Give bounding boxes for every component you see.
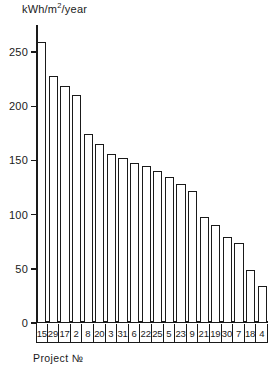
y-axis-tick: 100 [31, 214, 37, 215]
y-axis-tick-label: 250 [9, 46, 28, 58]
bar [95, 144, 104, 323]
x-axis-line [36, 321, 268, 323]
x-axis-category-label: 19 [210, 324, 222, 343]
y-axis-tick-label: 0 [22, 317, 28, 329]
bar [37, 42, 46, 323]
bar [72, 95, 81, 323]
bar [84, 134, 93, 323]
bar [153, 171, 162, 323]
y-axis-tick: 200 [31, 106, 37, 107]
y-axis-title-prefix: kWh/m [22, 3, 57, 15]
y-axis-title: kWh/m2/year [22, 3, 87, 15]
plot-area: 250200150100500 [36, 25, 268, 323]
x-axis-category-label: 21 [198, 324, 210, 343]
bar [234, 243, 243, 323]
y-axis-tick: 50 [31, 268, 37, 269]
y-axis-tick-label: 50 [15, 263, 28, 275]
y-axis-tick: 250 [31, 51, 37, 52]
y-axis-tick-label: 100 [9, 209, 28, 221]
x-axis-category-label: 6 [129, 324, 141, 343]
bar [176, 184, 185, 323]
bar [211, 225, 220, 323]
x-axis-title: Project № [33, 352, 83, 364]
x-axis-category-label: 30 [222, 324, 234, 343]
y-axis-tick-label: 150 [9, 154, 28, 166]
x-axis-category-label: 9 [187, 324, 199, 343]
bar-chart: kWh/m2/year 250200150100500 152917282033… [0, 0, 276, 371]
bar [223, 237, 232, 323]
y-axis-title-suffix: /year [62, 3, 87, 15]
bar [165, 177, 174, 323]
bar [60, 86, 69, 323]
x-axis-category-label: 23 [175, 324, 187, 343]
x-axis-category-label: 17 [59, 324, 71, 343]
bar [246, 270, 255, 323]
x-axis-category-label: 15 [36, 324, 48, 343]
x-axis-category-label: 2 [71, 324, 83, 343]
bar [118, 158, 127, 323]
y-axis-tick-label: 200 [9, 100, 28, 112]
bar [49, 76, 58, 323]
x-axis-category-label: 25 [152, 324, 164, 343]
x-axis-category-label: 22 [140, 324, 152, 343]
y-axis-tick: 150 [31, 160, 37, 161]
x-axis-category-label: 29 [48, 324, 60, 343]
x-axis-category-label: 4 [256, 324, 268, 343]
x-axis-category-label: 3 [106, 324, 118, 343]
x-axis-category-label: 7 [233, 324, 245, 343]
bar [130, 163, 139, 323]
bar [188, 191, 197, 323]
x-axis-category-label: 20 [94, 324, 106, 343]
bar [200, 217, 209, 323]
bar [142, 166, 151, 323]
x-axis-category-label: 31 [117, 324, 129, 343]
x-axis-category-label: 18 [245, 324, 257, 343]
x-axis-category-label: 5 [164, 324, 176, 343]
bar [258, 286, 267, 323]
x-axis-category-label: 8 [82, 324, 94, 343]
bar [107, 154, 116, 323]
x-axis-category-labels: 15291728203316222552392119307184 [36, 324, 268, 343]
